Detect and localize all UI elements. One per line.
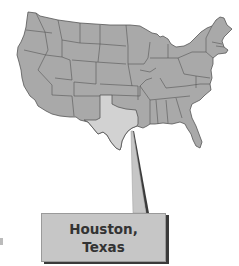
callout-label-box: Houston, Texas xyxy=(41,213,166,262)
cropped-text-fragment xyxy=(0,238,3,245)
callout-line-2: Texas xyxy=(82,238,124,256)
callout-pointer xyxy=(131,131,146,213)
callout-line-1: Houston, xyxy=(69,220,138,238)
figure: Houston, Texas xyxy=(0,0,239,266)
